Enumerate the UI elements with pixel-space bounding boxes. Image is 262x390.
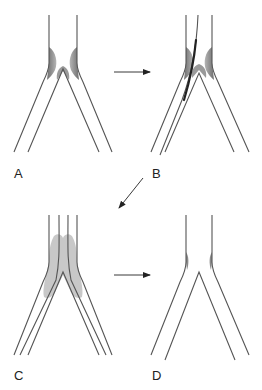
plaque-left xyxy=(47,47,56,80)
panel-label-a: A xyxy=(14,166,23,181)
panel-label-d: D xyxy=(152,368,161,383)
panel-label-c: C xyxy=(14,368,23,383)
panel-a-vessel xyxy=(14,15,112,152)
panel-c-vessel xyxy=(14,215,112,355)
panel-label-b: B xyxy=(152,166,161,181)
stent-right xyxy=(68,215,106,355)
plaque-carina xyxy=(192,64,206,78)
panel-d-vessel xyxy=(151,215,249,360)
arrow-b-to-c xyxy=(119,178,143,208)
stent-left xyxy=(20,215,59,355)
bifurcation-diagram xyxy=(0,0,262,390)
plaque-right xyxy=(70,47,79,80)
panel-b-vessel xyxy=(151,15,249,155)
